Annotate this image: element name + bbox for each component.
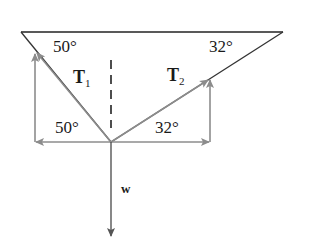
tension1-subscript: 1 [85, 77, 91, 89]
free-body-diagram: 50° 32° 50° 32° T1 T2 w [0, 0, 314, 250]
weight-label: w [121, 182, 130, 195]
tension1-label: T1 [73, 68, 91, 89]
tension2-label: T2 [167, 66, 185, 87]
tension2-subscript: 2 [179, 75, 185, 87]
angle-label-bottom-right: 32° [155, 119, 179, 136]
angle-label-top-left: 50° [53, 38, 77, 55]
tension1-symbol: T [73, 67, 85, 87]
tension2-symbol: T [167, 65, 179, 85]
angle-label-bottom-left: 50° [55, 119, 79, 136]
angle-label-top-right: 32° [209, 38, 233, 55]
